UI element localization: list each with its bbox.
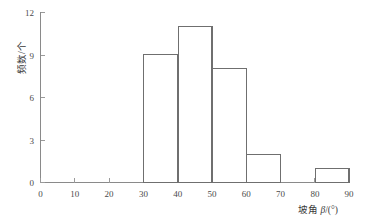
x-tick-label-0: 0 [38,189,43,199]
histogram-chart: 0 3 6 9 12 0 10 [0,0,366,224]
bar-30-40 [144,55,178,183]
chart-svg: 0 3 6 9 12 0 10 [0,0,366,224]
x-tick-label-80: 80 [310,189,320,199]
y-axis-title-wrap: 频数/个 [2,18,16,78]
y-axis-ticks [41,13,46,183]
x-tick-label-40: 40 [173,189,183,199]
bar-60-70 [247,154,281,182]
x-axis-ticks [41,178,350,183]
y-tick-label-0: 0 [30,178,35,188]
x-tick-label-50: 50 [208,189,218,199]
y-tick-label-3: 3 [30,136,35,146]
y-axis-tick-labels: 0 3 6 9 12 [25,8,35,188]
plot-area: 0 3 6 9 12 0 10 [0,0,366,224]
x-tick-label-10: 10 [70,189,80,199]
x-tick-label-60: 60 [242,189,252,199]
y-tick-label-12: 12 [25,8,34,18]
y-tick-label-6: 6 [30,93,35,103]
x-axis-tick-labels: 0 10 20 30 40 50 60 70 80 90 [38,189,354,199]
bar-80-90 [315,168,349,182]
histogram-bars [144,26,349,182]
x-axis-title-suffix: /(°) [325,205,338,216]
x-axis-title-prefix: 坡角 [298,204,320,215]
x-tick-label-90: 90 [345,189,355,199]
x-axis-title: 坡角 β/(°) [298,204,338,216]
y-tick-label-9: 9 [30,51,35,61]
bar-50-60 [213,69,247,183]
y-axis-title: 频数/个 [14,41,28,74]
x-tick-label-30: 30 [139,189,149,199]
x-tick-label-20: 20 [105,189,115,199]
bar-40-50 [178,26,212,182]
x-tick-label-70: 70 [276,189,286,199]
